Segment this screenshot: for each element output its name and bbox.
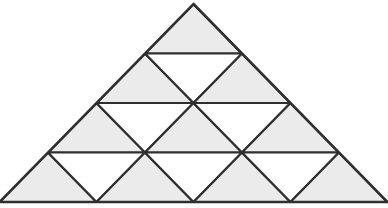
- subdivided-triangle-figure: [0, 0, 388, 208]
- figure-canvas: [0, 0, 388, 208]
